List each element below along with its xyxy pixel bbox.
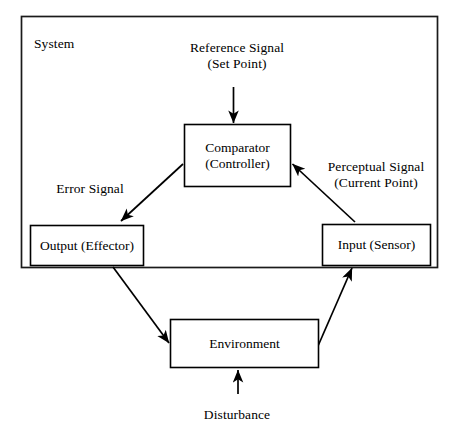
- perceptual-signal-line1: Perceptual Signal: [328, 159, 425, 175]
- reference-signal-label: Reference Signal (Set Point): [190, 40, 284, 71]
- arrow-environment-to-input: [318, 268, 352, 346]
- arrow-output-to-environment: [113, 267, 169, 343]
- perceptual-signal-line2: (Current Point): [328, 175, 425, 191]
- arrow-comparator-to-output: [121, 164, 183, 221]
- control-loop-diagram: System Reference Signal (Set Point) Perc…: [0, 0, 453, 437]
- comparator-line1: Comparator: [205, 140, 269, 156]
- disturbance-label: Disturbance: [204, 407, 270, 423]
- reference-signal-line2: (Set Point): [190, 56, 284, 72]
- comparator-line2: (Controller): [205, 156, 269, 172]
- input-sensor-box-label: Input (Sensor): [338, 237, 416, 253]
- environment-box-label: Environment: [209, 336, 280, 352]
- perceptual-signal-label: Perceptual Signal (Current Point): [328, 159, 425, 190]
- reference-signal-line1: Reference Signal: [190, 40, 284, 56]
- comparator-box-label: Comparator (Controller): [205, 140, 269, 172]
- error-signal-label: Error Signal: [56, 181, 124, 197]
- output-effector-box-label: Output (Effector): [40, 238, 134, 254]
- system-label: System: [34, 36, 74, 52]
